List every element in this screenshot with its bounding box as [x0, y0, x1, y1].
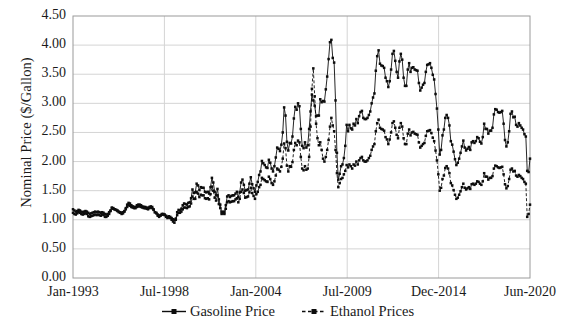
data-point-marker	[409, 71, 412, 74]
data-point-marker	[527, 213, 530, 216]
gasoline-ethanol-price-chart: Nominal Price ($/Gallon) 4.504.003.503.0…	[0, 0, 575, 335]
data-point-marker	[490, 129, 493, 132]
data-point-marker	[526, 216, 529, 219]
data-point-marker	[504, 139, 507, 142]
legend-item-ethanol[interactable]: Ethanol Prices	[301, 303, 414, 320]
data-point-marker	[320, 149, 323, 152]
data-point-marker	[236, 197, 239, 200]
data-point-marker	[480, 142, 483, 145]
data-point-marker	[326, 149, 329, 152]
data-point-marker	[336, 172, 339, 175]
data-point-marker	[261, 160, 264, 163]
data-point-marker	[376, 122, 379, 125]
data-point-marker	[315, 122, 318, 125]
data-point-marker	[251, 192, 254, 195]
data-point-marker	[240, 191, 243, 194]
data-point-marker	[405, 143, 408, 146]
data-point-marker	[390, 68, 393, 71]
data-point-marker	[384, 76, 387, 79]
data-point-marker	[457, 161, 460, 164]
data-point-marker	[447, 167, 450, 170]
data-point-marker	[469, 149, 472, 152]
data-point-marker	[394, 127, 397, 130]
data-point-marker	[237, 201, 240, 204]
data-point-marker	[358, 159, 361, 162]
data-point-marker	[319, 141, 322, 144]
data-point-marker	[282, 157, 285, 160]
ethanol-line-swatch-icon	[301, 306, 327, 317]
x-axis-tick-label: Dec-2014	[394, 284, 484, 300]
data-point-marker	[295, 144, 298, 147]
data-point-marker	[191, 188, 194, 191]
data-point-marker	[223, 213, 226, 216]
data-point-marker	[477, 137, 480, 140]
data-point-marker	[420, 86, 423, 89]
data-point-marker	[513, 170, 516, 173]
data-point-marker	[188, 205, 191, 208]
data-point-marker	[373, 143, 376, 146]
data-point-marker	[225, 207, 228, 210]
data-point-marker	[283, 142, 286, 145]
data-point-marker	[341, 163, 344, 166]
data-point-marker	[345, 164, 348, 167]
data-point-marker	[412, 66, 415, 69]
data-point-marker	[270, 167, 273, 170]
data-point-marker	[280, 143, 283, 146]
data-point-marker	[462, 182, 465, 185]
data-point-marker	[263, 164, 266, 167]
x-axis-tick-label: Jan-1993	[28, 284, 118, 300]
data-point-marker	[243, 184, 246, 187]
data-point-marker	[376, 55, 379, 58]
data-point-marker	[370, 149, 373, 152]
data-point-marker	[327, 58, 330, 61]
data-point-marker	[451, 143, 454, 146]
data-point-marker	[173, 221, 176, 224]
data-point-marker	[345, 124, 348, 127]
data-point-marker	[518, 122, 521, 125]
data-point-marker	[400, 122, 403, 125]
data-point-marker	[330, 39, 333, 42]
data-point-marker	[383, 129, 386, 132]
y-axis-tick-label: 4.50	[18, 8, 66, 22]
data-point-marker	[298, 141, 301, 144]
data-point-marker	[401, 125, 404, 128]
data-point-marker	[254, 191, 257, 194]
data-point-marker	[304, 165, 307, 168]
y-axis-tick-label: 0.00	[18, 270, 66, 284]
data-point-marker	[275, 174, 278, 177]
data-point-marker	[409, 134, 412, 137]
data-point-marker	[240, 181, 243, 184]
data-point-marker	[247, 195, 250, 198]
data-point-marker	[443, 174, 446, 177]
data-point-marker	[248, 182, 251, 185]
data-point-marker	[190, 202, 193, 205]
data-point-marker	[502, 173, 505, 176]
data-point-marker	[318, 114, 321, 117]
data-point-marker	[268, 159, 271, 162]
data-point-marker	[394, 60, 397, 63]
data-point-marker	[493, 167, 496, 170]
data-point-marker	[457, 196, 460, 199]
data-point-marker	[238, 198, 241, 201]
data-point-marker	[452, 150, 455, 153]
y-axis-tick-label: 3.00	[18, 95, 66, 109]
data-point-marker	[180, 210, 183, 213]
y-axis-tick-label: 2.00	[18, 154, 66, 168]
legend-item-gasoline[interactable]: Gasoline Price	[161, 303, 275, 320]
data-point-marker	[393, 120, 396, 123]
data-point-marker	[525, 182, 528, 185]
data-point-marker	[343, 173, 346, 176]
data-point-marker	[258, 186, 261, 189]
data-point-marker	[405, 85, 408, 88]
data-point-marker	[297, 102, 300, 105]
data-point-marker	[370, 102, 373, 105]
data-point-marker	[508, 130, 511, 133]
data-point-marker	[194, 198, 197, 201]
data-point-marker	[322, 157, 325, 160]
data-point-marker	[402, 76, 405, 79]
data-point-marker	[483, 172, 486, 175]
data-point-marker	[319, 98, 322, 101]
data-point-marker	[425, 71, 428, 74]
data-point-marker	[529, 203, 532, 206]
data-point-marker	[468, 146, 471, 149]
